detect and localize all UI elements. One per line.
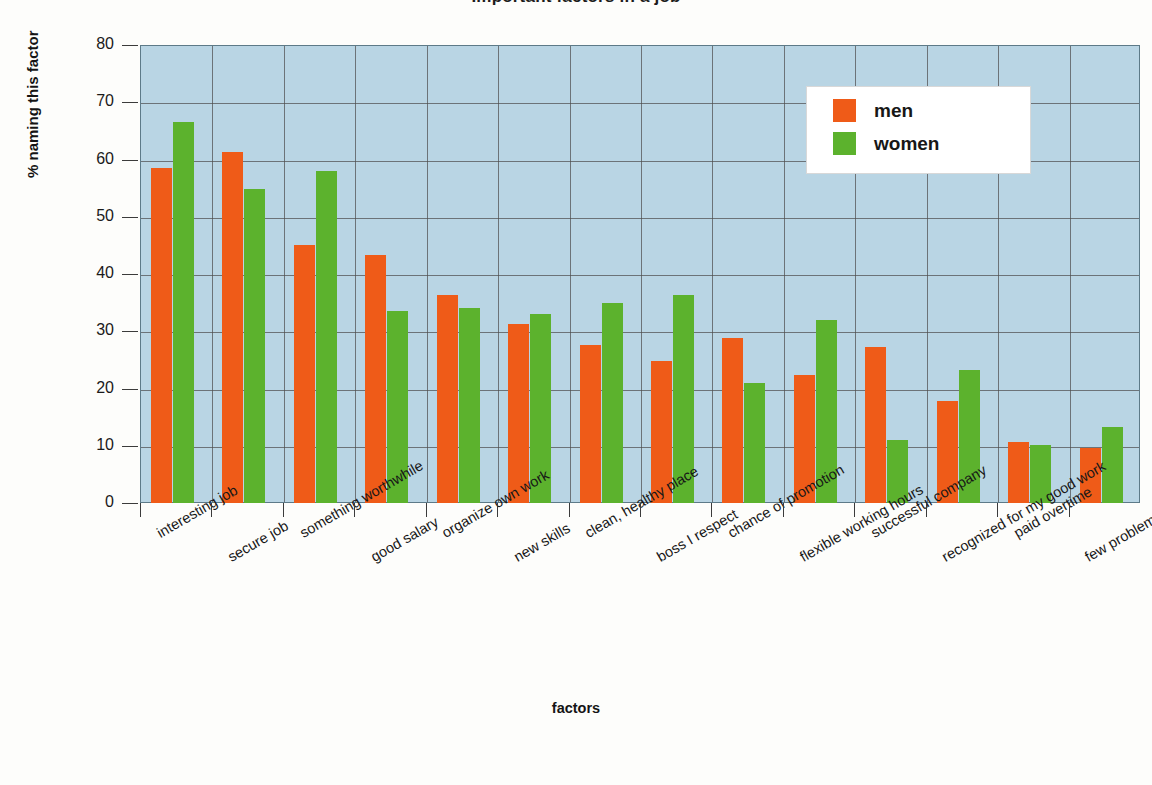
x-tick-label: good salary — [368, 514, 441, 565]
y-tick-mark — [122, 446, 138, 447]
gridline-vertical — [1070, 46, 1071, 502]
y-axis-title: % naming this factor — [24, 0, 41, 178]
y-tick-mark — [122, 274, 138, 275]
x-tick-mark — [497, 503, 498, 517]
x-axis-labels: interesting jobsecure jobsomething worth… — [140, 503, 1140, 693]
x-tick-label: boss I respect — [654, 506, 740, 565]
x-tick-mark — [926, 503, 927, 517]
y-tick-label: 70 — [74, 92, 114, 110]
gridline-vertical — [427, 46, 428, 502]
x-tick-mark — [354, 503, 355, 517]
gridline-vertical — [784, 46, 785, 502]
x-tick-mark — [997, 503, 998, 517]
legend-swatch-men — [833, 99, 856, 122]
gridline-horizontal — [141, 218, 1139, 219]
y-tick-mark — [122, 503, 138, 504]
gridline-vertical — [284, 46, 285, 502]
gridline-vertical — [570, 46, 571, 502]
x-tick-mark — [640, 503, 641, 517]
y-tick-label: 80 — [74, 35, 114, 53]
gridline-horizontal — [141, 390, 1139, 391]
x-tick-mark — [854, 503, 855, 517]
x-tick-label: secure job — [225, 518, 291, 565]
legend-entry-men: men — [833, 99, 1030, 122]
x-tick-mark — [140, 503, 141, 517]
gridline-horizontal — [141, 332, 1139, 333]
x-tick-mark — [711, 503, 712, 517]
legend-entry-women: women — [833, 132, 1030, 155]
x-tick-mark — [426, 503, 427, 517]
x-tick-mark — [783, 503, 784, 517]
x-tick-mark — [569, 503, 570, 517]
y-tick-mark — [122, 331, 138, 332]
y-tick-mark — [122, 160, 138, 161]
legend-label-women: women — [874, 133, 939, 155]
y-tick-label: 40 — [74, 264, 114, 282]
legend: men women — [806, 86, 1031, 174]
gridline-vertical — [641, 46, 642, 502]
y-tick-mark — [122, 45, 138, 46]
legend-swatch-women — [833, 132, 856, 155]
y-tick-label: 60 — [74, 150, 114, 168]
legend-label-men: men — [874, 100, 913, 122]
x-tick-mark — [211, 503, 212, 517]
gridline-vertical — [212, 46, 213, 502]
y-tick-label: 30 — [74, 321, 114, 339]
x-tick-label: new skills — [511, 520, 573, 565]
y-tick-label: 50 — [74, 207, 114, 225]
gridline-vertical — [712, 46, 713, 502]
x-tick-mark — [1069, 503, 1070, 517]
gridline-vertical — [355, 46, 356, 502]
gridline-horizontal — [141, 275, 1139, 276]
chart-title: Important factors in a job — [0, 0, 1152, 7]
y-tick-label: 20 — [74, 379, 114, 397]
y-tick-label: 0 — [74, 493, 114, 511]
gridline-horizontal — [141, 447, 1139, 448]
gridline-vertical — [498, 46, 499, 502]
x-axis-title: factors — [0, 700, 1152, 716]
chart-page: Important factors in a job % naming this… — [0, 0, 1152, 785]
y-tick-label: 10 — [74, 436, 114, 454]
y-tick-mark — [122, 389, 138, 390]
y-tick-mark — [122, 102, 138, 103]
x-tick-mark — [283, 503, 284, 517]
y-tick-mark — [122, 217, 138, 218]
